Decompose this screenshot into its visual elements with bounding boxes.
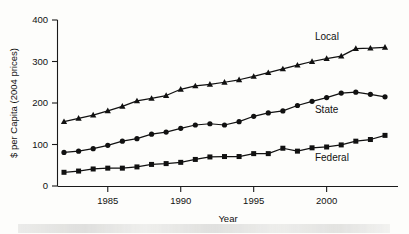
- data-point-state: [207, 121, 212, 126]
- data-point-state: [280, 108, 285, 113]
- data-point-federal: [149, 162, 154, 167]
- data-point-federal: [339, 142, 344, 147]
- y-tick-label: 100: [32, 139, 48, 150]
- x-axis-title: Year: [218, 213, 237, 224]
- data-point-federal: [105, 166, 110, 171]
- data-point-federal: [266, 151, 271, 156]
- data-point-federal: [62, 170, 67, 175]
- data-point-federal: [237, 154, 242, 159]
- data-point-federal: [383, 133, 388, 138]
- y-axis-title: $ per Capita (2004 prices): [8, 48, 19, 158]
- data-point-federal: [295, 149, 300, 154]
- data-point-federal: [251, 151, 256, 156]
- data-point-state: [120, 139, 125, 144]
- data-point-state: [368, 92, 373, 97]
- series-line-state: [64, 92, 385, 152]
- data-point-federal: [134, 164, 139, 169]
- data-point-federal: [207, 154, 212, 159]
- data-point-state: [382, 94, 387, 99]
- series-label-local: Local: [315, 31, 339, 42]
- y-tick-label: 200: [32, 97, 48, 108]
- series-label-group: LocalStateFederal: [315, 31, 349, 163]
- series-label-federal: Federal: [315, 152, 349, 163]
- data-point-state: [295, 103, 300, 108]
- data-point-federal: [164, 161, 169, 166]
- chart-figure: 0100200300400 1985199019952000 LocalStat…: [0, 0, 409, 234]
- data-point-state: [193, 122, 198, 127]
- y-tick-label: 0: [43, 180, 48, 191]
- x-tick-label: 1985: [97, 195, 118, 206]
- data-point-federal: [178, 160, 183, 165]
- data-point-federal: [353, 139, 358, 144]
- data-point-federal: [368, 137, 373, 142]
- data-point-federal: [324, 144, 329, 149]
- data-point-state: [76, 149, 81, 154]
- data-point-state: [353, 90, 358, 95]
- data-point-state: [105, 143, 110, 148]
- data-point-federal: [120, 166, 125, 171]
- data-point-federal: [193, 157, 198, 162]
- data-point-state: [251, 114, 256, 119]
- y-tick-label: 300: [32, 56, 48, 67]
- data-point-federal: [76, 169, 81, 174]
- data-point-state: [266, 110, 271, 115]
- data-point-state: [164, 129, 169, 134]
- y-tick-label: 400: [32, 14, 48, 25]
- data-point-state: [324, 95, 329, 100]
- data-point-state: [178, 126, 183, 131]
- data-point-federal: [310, 145, 315, 150]
- data-point-state: [61, 150, 66, 155]
- y-axis-tick-group: 0100200300400: [32, 14, 57, 191]
- x-tick-label: 1995: [243, 195, 264, 206]
- data-point-state: [91, 146, 96, 151]
- data-point-state: [134, 136, 139, 141]
- data-point-state: [149, 132, 154, 137]
- x-tick-label: 1990: [170, 195, 191, 206]
- series-label-state: State: [315, 104, 339, 115]
- line-chart: 0100200300400 1985199019952000 LocalStat…: [0, 0, 409, 234]
- data-point-federal: [91, 166, 96, 171]
- data-point-state: [236, 119, 241, 124]
- data-point-federal: [222, 154, 227, 159]
- data-point-federal: [280, 146, 285, 151]
- caption-fragment: [18, 224, 390, 233]
- x-axis-tick-group: 1985199019952000: [97, 187, 337, 207]
- data-point-state: [339, 90, 344, 95]
- data-point-state: [309, 99, 314, 104]
- x-tick-label: 2000: [316, 195, 337, 206]
- data-point-state: [222, 122, 227, 127]
